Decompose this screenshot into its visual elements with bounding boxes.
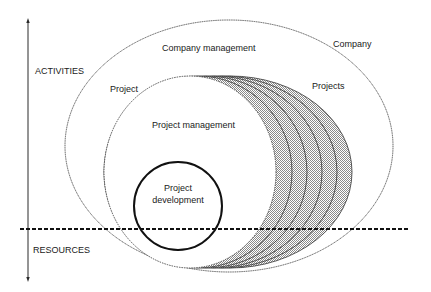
label-company: Company [333,39,372,49]
label-company-management: Company management [162,43,256,53]
vertical-axis [26,18,29,282]
arrow-up-icon [26,18,29,23]
axis-label-activities: ACTIVITIES [35,66,84,76]
label-project-management: Project management [152,120,236,130]
axis-label-resources: RESOURCES [33,245,90,255]
arrow-down-icon [26,277,29,282]
label-projects: Projects [312,81,345,91]
project-ellipse [104,76,276,268]
label-project: Project [110,84,139,94]
label-project-development-line1: Project [164,183,193,193]
activities-resources-diagram: ACTIVITIES RESOURCES Company Company man… [0,0,431,292]
label-project-development-line2: development [152,195,204,205]
